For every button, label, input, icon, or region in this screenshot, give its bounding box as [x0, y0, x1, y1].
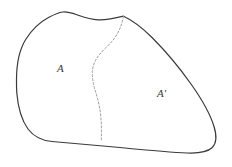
region-diagram: A A′ [0, 0, 232, 167]
diagram-background [0, 0, 232, 167]
region-diagram-canvas [0, 0, 232, 167]
region-label-a-prime: A′ [157, 88, 166, 99]
region-label-a: A [57, 63, 64, 74]
